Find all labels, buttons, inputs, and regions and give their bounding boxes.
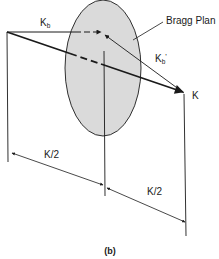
right-vertical-line xyxy=(184,94,186,236)
k-label: K xyxy=(192,90,199,101)
bragg-plane-leader-line xyxy=(133,22,163,40)
kb-prime-label: Kb' xyxy=(155,52,167,65)
left-vertical-line xyxy=(7,32,8,162)
half-k-right-label: K/2 xyxy=(147,186,162,197)
figure-caption: (b) xyxy=(104,246,116,256)
kb-label: Kb xyxy=(40,17,51,29)
bragg-plane-ellipse xyxy=(65,0,141,140)
half-k-left-label: K/2 xyxy=(44,149,59,160)
bragg-plane-label: Bragg Plan xyxy=(166,15,215,26)
bragg-plane-diagram: Kb Kb' K Bragg Plan K/2 K/2 (b) xyxy=(0,0,219,259)
half-k-right-dimension-arrow xyxy=(107,188,185,222)
kb-prime-vector-arrow xyxy=(105,35,184,93)
middle-vertical-line xyxy=(104,51,105,196)
